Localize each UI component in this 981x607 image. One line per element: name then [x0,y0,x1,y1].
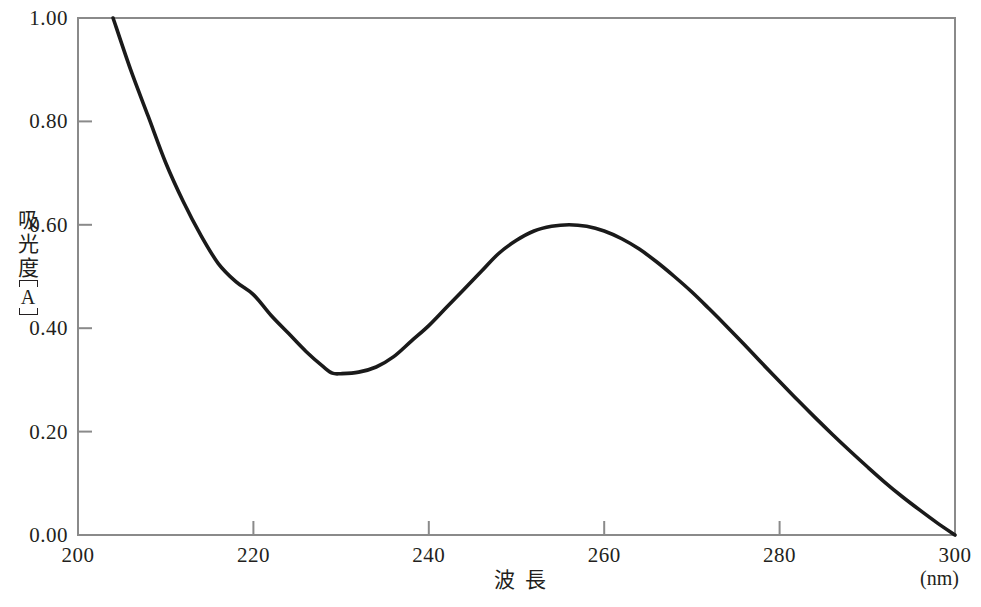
x-axis-title: 波長 [430,563,610,593]
y-tick-label: 0.80 [29,109,68,133]
y-axis-title-char-2: 光 [8,232,48,256]
x-tick-label: 280 [763,543,796,567]
y-axis-ticks [78,121,92,431]
absorbance-curve [113,18,955,535]
y-tick-label: 0.20 [29,420,68,444]
y-axis-unit: A [8,280,48,315]
y-axis-unit-letter: A [8,287,48,308]
y-axis-title-char-3: 度 [8,256,48,280]
y-axis-title: 吸 光 度 [8,208,48,280]
plot-frame [78,18,955,535]
y-tick-label: 0.40 [29,316,68,340]
x-axis-ticks [253,521,779,535]
x-axis-title-char-1: 波 [494,568,515,591]
x-tick-label: 220 [237,543,270,567]
x-tick-label: 200 [62,543,95,567]
x-tick-label: 300 [939,543,972,567]
y-tick-label: 1.00 [29,6,68,30]
x-axis-unit: (nm) [920,567,959,590]
x-axis-title-char-2: 長 [525,568,546,591]
y-axis-title-char-1: 吸 [8,208,48,232]
bracket-bottom-icon [19,308,38,315]
plot-svg: 0.000.200.400.600.801.00 200220240260280… [0,0,981,607]
absorbance-spectrum-chart: 0.000.200.400.600.801.00 200220240260280… [0,0,981,607]
